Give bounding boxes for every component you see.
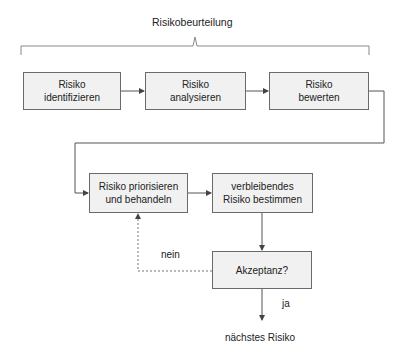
box-text-line1: Risiko [170,78,221,91]
box-evaluate-risk: Risikobewerten [269,72,369,110]
box-prioritize-treat: Risiko priorisierenund behandeln [89,173,188,213]
edge-label-yes: ja [282,298,290,309]
arrow-no-back-to-prioritize [138,214,212,271]
brace-bracket [21,37,369,55]
box-text-line1: verbleibendes [223,180,302,193]
box-residual-risk: verbleibendesRisiko bestimmen [212,173,313,213]
diagram-title: Risikobeurteilung [152,16,233,28]
terminal-next-risk: nächstes Risiko [225,332,295,343]
box-text-line2: bewerten [298,91,339,104]
connector-lines [0,0,402,355]
box-text-line2: identifizieren [44,91,100,104]
box-text-line1: Akzeptanz? [236,264,288,277]
box-text-line1: Risiko priorisieren [99,180,178,193]
box-text-line2: Risiko bestimmen [223,193,302,206]
box-identify-risk: Risikoidentifizieren [23,72,121,110]
box-text-line2: analysieren [170,91,221,104]
edge-label-no: nein [161,249,180,260]
box-text-line1: Risiko [298,78,339,91]
box-analyze-risk: Risikoanalysieren [145,72,246,110]
box-text-line1: Risiko [44,78,100,91]
box-text-line2: und behandeln [99,193,178,206]
box-acceptance-decision: Akzeptanz? [212,251,312,289]
